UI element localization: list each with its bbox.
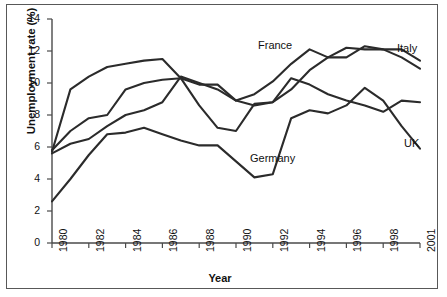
series-line-italy (52, 46, 420, 153)
x-tick-1982: 1982 (94, 229, 106, 252)
x-tick-1996: 1996 (351, 229, 363, 252)
series-label-france: France (258, 39, 292, 51)
x-tick-1998: 1998 (388, 229, 400, 252)
series-line-germany (52, 59, 420, 152)
y-tick-4: 4 (18, 172, 40, 184)
x-axis-title: Year (160, 272, 280, 284)
x-tick-1980: 1980 (57, 229, 69, 252)
data-series-group (52, 46, 420, 201)
y-tick-0: 0 (18, 236, 40, 248)
x-tick-1988: 1988 (204, 229, 216, 252)
y-tick-2: 2 (18, 204, 40, 216)
series-label-germany: Germany (250, 152, 295, 164)
x-tick-1984: 1984 (131, 229, 143, 252)
x-tick-2001: 2001 (425, 229, 437, 252)
x-tick-1986: 1986 (167, 229, 179, 252)
series-label-italy: Italy (397, 42, 417, 54)
x-tick-1994: 1994 (315, 229, 327, 252)
series-label-uk: UK (404, 137, 419, 149)
chart-plot-area (0, 0, 447, 297)
axis-ticks (47, 19, 420, 248)
chart-figure: 02468101214 1980198219841986198819901992… (0, 0, 447, 297)
y-axis-title: Unemployment rate (%) (25, 0, 43, 151)
x-tick-1992: 1992 (278, 229, 290, 252)
x-tick-1990: 1990 (241, 229, 253, 252)
